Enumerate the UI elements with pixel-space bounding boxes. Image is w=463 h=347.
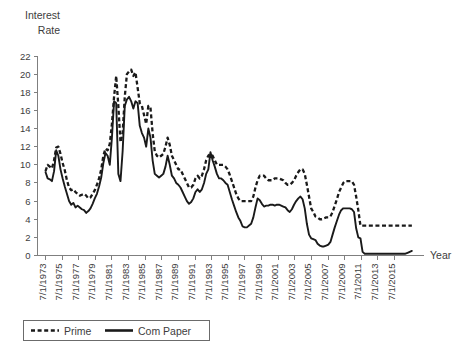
y-tick-label: 16 <box>20 105 31 116</box>
legend-label-com-paper: Com Paper <box>138 325 192 337</box>
x-tick-label: 7/1/1975 <box>53 264 64 301</box>
x-tick-label: 7/1/1997 <box>236 264 247 301</box>
legend-label-prime: Prime <box>64 325 92 337</box>
chart-legend[interactable]: Prime Com Paper <box>24 321 210 341</box>
y-tick-label: 18 <box>20 87 31 98</box>
x-tick-label: 7/1/1979 <box>86 264 97 301</box>
x-tick-label: 7/1/1991 <box>186 264 197 301</box>
y-tick-label: 10 <box>20 159 31 170</box>
x-tick-label: 7/1/1989 <box>169 264 180 301</box>
x-tick-label: 7/1/2013 <box>369 264 380 301</box>
x-tick-label: 7/1/2003 <box>286 264 297 301</box>
y-tick-label: 12 <box>20 141 31 152</box>
y-tick-label: 20 <box>20 69 31 80</box>
x-tick-label: 7/1/1985 <box>136 264 147 301</box>
x-axis-ticks: 7/1/19737/1/19757/1/19777/1/19797/1/1981… <box>37 256 397 301</box>
x-tick-label: 7/1/2005 <box>302 264 313 301</box>
y-tick-label: 6 <box>25 196 30 207</box>
interest-rate-chart: Interest Rate 0246810121416182022 7/1/19… <box>0 0 463 347</box>
x-tick-label: 7/1/1973 <box>37 264 48 301</box>
y-tick-label: 2 <box>25 232 30 243</box>
x-tick-label: 7/1/2015 <box>386 264 397 301</box>
x-axis-title: Year <box>430 249 452 261</box>
y-tick-label: 4 <box>25 214 30 225</box>
x-tick-label: 7/1/1995 <box>219 264 230 301</box>
x-tick-label: 7/1/1981 <box>103 264 114 301</box>
x-tick-label: 7/1/2011 <box>352 264 363 300</box>
chart-svg: Interest Rate 0246810121416182022 7/1/19… <box>0 0 463 347</box>
x-tick-label: 7/1/1977 <box>70 264 81 301</box>
y-axis-title-line-2: Rate <box>38 24 60 36</box>
series-prime <box>46 70 412 226</box>
series-group <box>46 70 412 254</box>
x-tick-label: 7/1/2001 <box>269 264 280 301</box>
x-tick-label: 7/1/1983 <box>120 264 131 301</box>
x-tick-label: 7/1/1999 <box>253 264 264 301</box>
y-tick-label: 0 <box>25 250 30 261</box>
y-axis-title: Interest Rate <box>25 9 60 36</box>
y-tick-label: 22 <box>20 51 31 62</box>
y-axis-title-line-1: Interest <box>25 9 60 21</box>
x-tick-label: 7/1/2007 <box>319 264 330 301</box>
x-tick-label: 7/1/2009 <box>336 264 347 301</box>
y-tick-label: 8 <box>25 177 30 188</box>
x-tick-label: 7/1/1993 <box>203 264 214 301</box>
y-axis-ticks: 0246810121416182022 <box>20 51 38 262</box>
y-tick-label: 14 <box>20 123 31 134</box>
series-com-paper <box>46 97 412 254</box>
x-tick-label: 7/1/1987 <box>153 264 164 301</box>
